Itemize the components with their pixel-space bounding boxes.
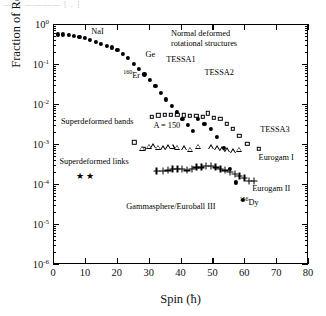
data-point-open-square	[256, 147, 260, 151]
data-point-open-square	[205, 111, 209, 115]
data-point-filled-circle	[77, 35, 81, 39]
y-axis-minor-tick	[53, 125, 56, 126]
y-axis-minor-tick	[53, 73, 56, 74]
data-point-filled-circle	[159, 91, 163, 95]
data-point-open-triangle	[195, 144, 201, 149]
data-point-open-square	[201, 115, 205, 119]
annotation-sdbands: Superdeformed bands	[61, 117, 134, 126]
data-point-open-square	[175, 113, 179, 117]
data-point-open-square	[212, 116, 216, 120]
data-point-open-square	[225, 122, 229, 126]
y-axis-minor-tick	[53, 132, 56, 133]
y-axis-minor-tick	[53, 40, 56, 41]
x-axis-tick-label: 30	[143, 267, 154, 278]
data-point-open-square	[162, 113, 166, 117]
y-axis-minor-tick	[53, 113, 56, 114]
y-axis-minor-tick	[53, 186, 56, 187]
y-axis-title: Fraction of Reaction Channel	[9, 0, 24, 94]
y-axis-minor-tick	[305, 66, 308, 67]
y-axis-minor-tick	[53, 70, 56, 71]
data-point-filled-circle	[209, 127, 213, 131]
y-axis-minor-tick	[53, 200, 56, 201]
data-point-filled-circle	[234, 180, 238, 184]
data-point-filled-circle	[56, 32, 60, 36]
y-axis-minor-tick	[53, 146, 56, 147]
y-axis-minor-tick	[305, 106, 308, 107]
data-point-open-triangle	[187, 147, 193, 152]
data-point-open-triangle	[208, 144, 214, 149]
y-axis-minor-tick	[305, 148, 308, 149]
y-axis-minor-tick	[53, 148, 56, 149]
y-axis-minor-tick	[305, 245, 308, 246]
annotation-a150: A = 150	[153, 121, 180, 130]
data-point-open-square	[169, 113, 173, 117]
y-axis-minor-tick	[305, 190, 308, 191]
y-axis-minor-tick	[53, 153, 56, 154]
x-axis-tick-label: 60	[239, 267, 250, 278]
data-point-open-square	[245, 142, 249, 146]
y-axis-minor-tick	[305, 252, 308, 253]
y-axis-minor-tick	[305, 68, 308, 69]
y-axis-minor-tick	[305, 193, 308, 194]
data-point-filled-circle	[215, 135, 219, 139]
y-axis-minor-tick	[305, 240, 308, 241]
annotation-gammasphere: Gammasphere/Euroball III	[126, 202, 215, 211]
data-point-open-square	[132, 140, 136, 144]
y-axis-minor-tick	[53, 150, 56, 151]
y-axis-minor-tick	[53, 116, 56, 117]
x-axis-tick	[181, 258, 182, 264]
y-axis-minor-tick	[305, 200, 308, 201]
y-axis-minor-tick	[305, 150, 308, 151]
annotation-eurogam1: Eurogam I	[259, 153, 294, 162]
y-axis-minor-tick	[305, 196, 308, 197]
y-axis-minor-tick	[305, 146, 308, 147]
x-axis-tick	[212, 258, 213, 264]
y-axis-minor-tick	[53, 30, 56, 31]
y-axis-minor-tick	[305, 132, 308, 133]
data-point-filled-circle	[110, 45, 114, 49]
x-axis-tick	[308, 258, 309, 264]
x-axis-tick-label: 50	[207, 267, 218, 278]
annotation-dy156: 156Dy	[239, 196, 258, 207]
y-axis-tick-label: 10-6	[33, 258, 49, 271]
y-axis-minor-tick	[53, 233, 56, 234]
data-point-open-square	[156, 113, 160, 117]
data-point-open-square	[218, 117, 222, 121]
y-axis-minor-tick	[305, 30, 308, 31]
data-point-filled-circle	[83, 36, 87, 40]
y-axis-minor-tick	[53, 245, 56, 246]
y-axis-minor-tick	[53, 160, 56, 161]
x-axis-tick	[149, 24, 150, 30]
y-axis-minor-tick	[53, 45, 56, 46]
x-axis-tick	[53, 24, 54, 30]
y-axis-minor-tick	[53, 240, 56, 241]
y-axis-minor-tick	[53, 66, 56, 67]
y-axis-minor-tick	[305, 160, 308, 161]
x-axis-tick	[85, 258, 86, 264]
y-axis-minor-tick	[53, 205, 56, 206]
y-axis-minor-tick	[305, 76, 308, 77]
data-point-filled-circle	[121, 52, 125, 56]
y-axis-minor-tick	[305, 205, 308, 206]
y-axis-minor-tick	[305, 40, 308, 41]
y-axis-minor-tick	[53, 76, 56, 77]
y-axis-minor-tick	[53, 228, 56, 229]
data-point-filled-circle	[153, 84, 157, 88]
y-axis-major-tick	[53, 264, 59, 265]
annotation-normal: Normal deformedrotational structures	[171, 29, 246, 48]
data-point-filled-circle	[115, 48, 119, 52]
y-axis-minor-tick	[305, 125, 308, 126]
annotation-nai: NaI	[91, 27, 103, 36]
y-axis-minor-tick	[53, 190, 56, 191]
y-axis-major-tick	[302, 264, 308, 265]
y-axis-tick-label: 10-2	[33, 98, 49, 111]
data-point-open-square	[231, 127, 235, 131]
y-axis-minor-tick	[305, 233, 308, 234]
data-point-star: ★	[86, 171, 94, 180]
data-point-filled-circle	[196, 117, 200, 121]
data-point-filled-circle	[72, 34, 76, 38]
y-axis-minor-tick	[53, 92, 56, 93]
truncated-header-text: —— ———— [ , ]	[4, 0, 322, 12]
y-axis-minor-tick	[53, 120, 56, 121]
y-axis-minor-tick	[53, 52, 56, 53]
